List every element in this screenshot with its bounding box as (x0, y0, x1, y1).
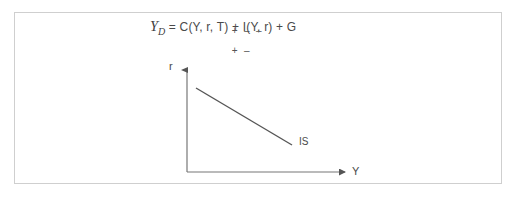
lhs-subscript: D (158, 26, 165, 37)
sign-annotation-row: +–– +– (150, 6, 390, 19)
figure-border (14, 12, 502, 184)
is-curve-label: IS (299, 136, 308, 147)
equation-text: YD = C(Y, r, T) + I(Y, r) + G (150, 19, 390, 37)
sign-investment-income: + (229, 46, 241, 56)
equation-block: +–– +– YD = C(Y, r, T) + I(Y, r) + G (150, 6, 390, 37)
lhs-variable: Y (150, 18, 158, 34)
equation-lhs: YD (150, 18, 165, 34)
sign-investment-rate: – (241, 46, 253, 56)
y-axis-label: r (169, 60, 173, 72)
equation-rhs: = C(Y, r, T) + I(Y, r) + G (169, 20, 297, 34)
x-axis-label: Y (352, 165, 359, 177)
